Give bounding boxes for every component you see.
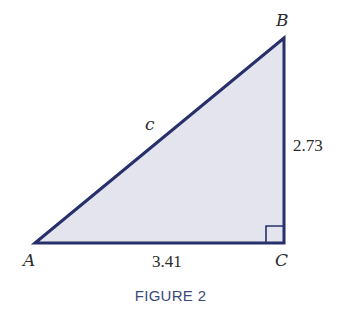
triangle-shape bbox=[35, 38, 284, 243]
triangle-drawing bbox=[0, 0, 341, 329]
figure-caption: FIGURE 2 bbox=[0, 287, 341, 304]
right-triangle-figure: B A C c 2.73 3.41 FIGURE 2 bbox=[0, 0, 341, 329]
vertex-label-c: C bbox=[275, 252, 288, 269]
side-label-ac: 3.41 bbox=[152, 253, 182, 270]
side-label-bc: 2.73 bbox=[293, 137, 323, 154]
vertex-label-b: B bbox=[276, 12, 289, 29]
vertex-label-a: A bbox=[23, 252, 35, 269]
side-label-hypotenuse: c bbox=[145, 116, 155, 133]
